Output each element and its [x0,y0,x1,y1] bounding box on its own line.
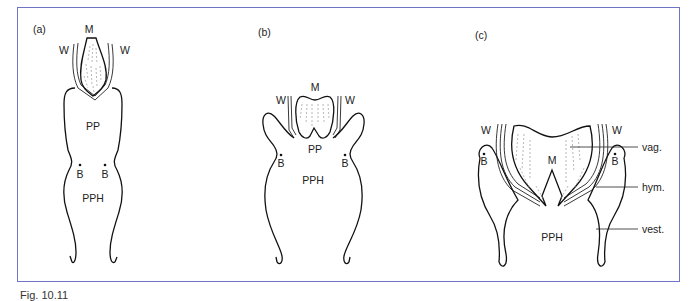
label-pph: PPH [302,174,324,186]
label-m: M [548,154,557,166]
figure-caption: Fig. 10.11 [20,289,68,301]
label-m: M [85,23,94,35]
callout-vag: vag. [642,141,662,153]
bulb-dot-left [280,154,283,157]
label-w-right: W [612,124,622,136]
bulb-dot-left [79,164,82,167]
mullerian-tube-b [296,96,334,138]
wall-left-inner [77,43,95,96]
label-pp: PP [86,120,100,132]
panel-label-b: (b) [258,26,271,38]
label-pp: PP [308,143,322,155]
vestibule-right [588,145,626,266]
panel-label-c: (c) [475,29,487,41]
label-w-right: W [345,94,355,106]
bulb-dot-right [104,164,107,167]
label-b-right: B [341,157,348,169]
panel-label-a: (a) [33,23,46,35]
label-b-left: B [277,157,284,169]
label-w-left: W [276,94,286,106]
bulb-dot-right [344,154,347,157]
callout-vest: vest. [642,223,664,235]
label-w-left: W [481,124,491,136]
label-b-left: B [76,168,83,180]
label-b-left: B [480,155,487,167]
urogenital-sinus-b [263,113,364,263]
panel-c: (c) W W M B B PPH vag. hym. vest. [475,29,665,266]
label-m: M [311,81,320,93]
label-pph: PPH [82,192,104,204]
label-b-right: B [611,155,618,167]
panel-a: (a) M W W PP B B PPH [33,23,130,263]
label-w-left: W [59,44,69,56]
label-b-right: B [101,168,108,180]
panel-b: (b) M W W PP B B PPH [258,26,364,264]
label-w-right: W [120,44,130,56]
urogenital-sinus-a [64,88,122,263]
callout-hym: hym. [642,181,665,193]
label-pph: PPH [541,231,563,243]
